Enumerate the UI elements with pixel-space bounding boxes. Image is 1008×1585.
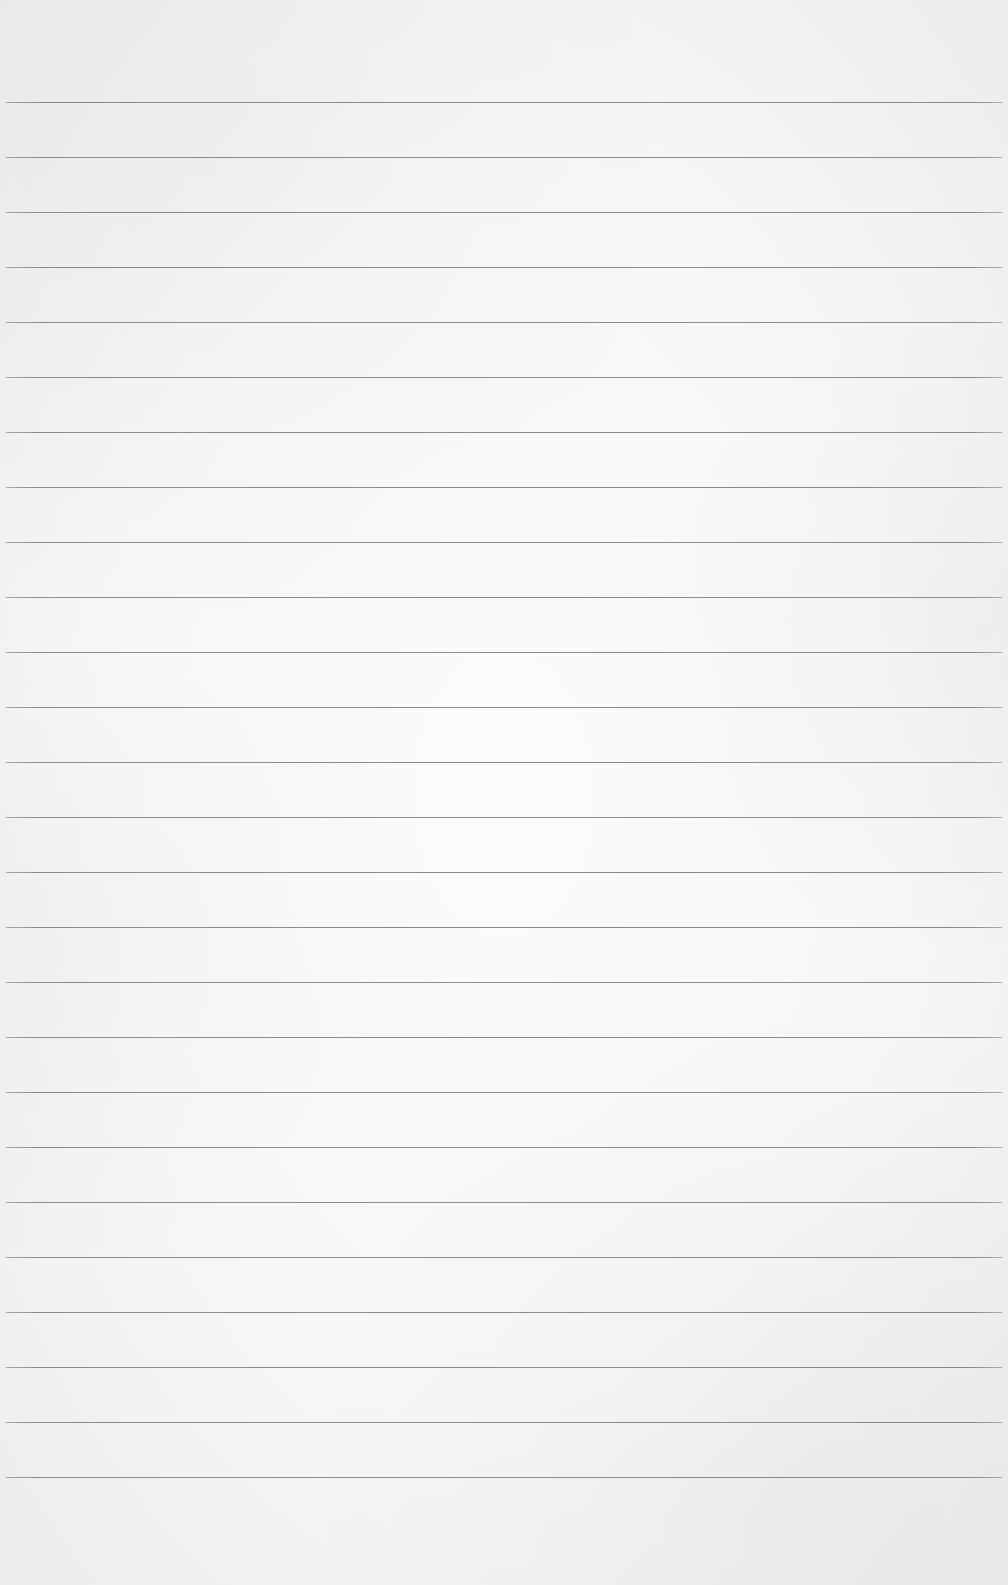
ruled-line xyxy=(6,212,1002,213)
ruled-line xyxy=(6,817,1002,818)
ruled-line xyxy=(6,267,1002,268)
ruled-line xyxy=(6,542,1002,543)
ruled-line xyxy=(6,1257,1002,1258)
ruled-line xyxy=(6,432,1002,433)
ruled-line xyxy=(6,597,1002,598)
ruled-line xyxy=(6,1312,1002,1313)
lined-paper xyxy=(0,0,1008,1585)
ruled-line xyxy=(6,927,1002,928)
ruled-line xyxy=(6,157,1002,158)
ruled-line xyxy=(6,487,1002,488)
ruled-line xyxy=(6,1092,1002,1093)
ruled-line xyxy=(6,377,1002,378)
ruled-line xyxy=(6,762,1002,763)
ruled-line xyxy=(6,102,1002,103)
ruled-line xyxy=(6,322,1002,323)
ruled-line xyxy=(6,1202,1002,1203)
ruled-line xyxy=(6,652,1002,653)
ruled-line xyxy=(6,1422,1002,1423)
ruled-line xyxy=(6,1367,1002,1368)
ruled-line xyxy=(6,872,1002,873)
ruled-line xyxy=(6,1037,1002,1038)
ruled-line xyxy=(6,1147,1002,1148)
ruled-line xyxy=(6,1477,1002,1478)
ruled-line xyxy=(6,707,1002,708)
ruled-line xyxy=(6,982,1002,983)
